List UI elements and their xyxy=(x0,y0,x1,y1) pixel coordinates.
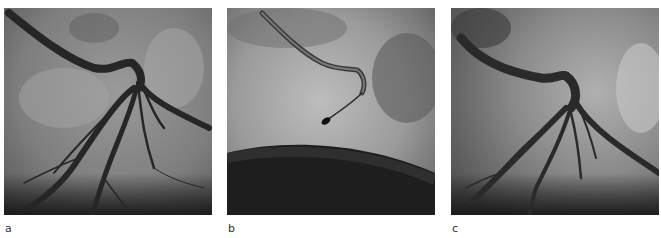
panel-label-a: a xyxy=(5,222,12,235)
angiogram-panel-b xyxy=(227,8,435,215)
angiogram-panel-a xyxy=(4,8,212,215)
angiogram-image-a xyxy=(4,8,212,215)
angiogram-image-c xyxy=(451,8,659,215)
angiogram-panel-c xyxy=(451,8,659,215)
panel-label-c: c xyxy=(452,222,458,235)
panel-label-b: b xyxy=(228,222,235,235)
angiogram-image-b xyxy=(227,8,435,215)
